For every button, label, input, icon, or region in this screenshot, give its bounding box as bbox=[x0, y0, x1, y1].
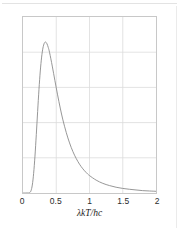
planck-distribution-figure: 00.511.52 λkT/hc ρ/{8π(kT)5/(hc)4} bbox=[0, 0, 179, 231]
y-axis-title: ρ/{8π(kT)5/(hc)4} bbox=[4, 0, 18, 44]
x-axis-tick-label: 2 bbox=[155, 196, 160, 207]
curve-path bbox=[23, 42, 156, 193]
x-axis-title: λkT/hc bbox=[22, 208, 157, 218]
data-curve-planck-distribution bbox=[23, 17, 156, 193]
image-top-border bbox=[2, 3, 177, 4]
x-axis-tick-label: 1.5 bbox=[117, 196, 129, 207]
image-right-border bbox=[176, 6, 177, 228]
x-axis-tick-label: 1 bbox=[87, 196, 92, 207]
x-axis-tick-label: 0.5 bbox=[50, 196, 62, 207]
x-axis-tick-labels: 00.511.52 bbox=[22, 196, 157, 208]
plot-area bbox=[22, 16, 157, 194]
x-axis-tick-label: 0 bbox=[20, 196, 25, 207]
x-axis-title-hc: hc bbox=[93, 208, 102, 218]
